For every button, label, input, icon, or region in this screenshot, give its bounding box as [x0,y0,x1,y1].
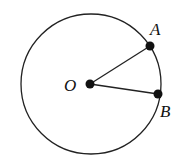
point-B [154,90,163,99]
label-A: A [149,20,161,39]
point-O [86,80,95,89]
label-B: B [160,102,171,121]
label-O: O [64,76,76,95]
point-A [146,42,155,51]
segment-OA [90,46,150,84]
segment-OB [90,84,158,94]
circle-diagram: O A B [0,0,188,164]
